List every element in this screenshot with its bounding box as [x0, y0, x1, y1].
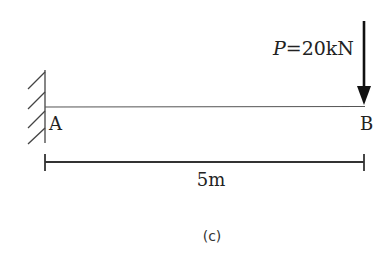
figure-caption: (c): [203, 228, 222, 244]
point-label-a: A: [48, 113, 63, 134]
load-label: P=20kN: [272, 37, 354, 59]
beam: [45, 107, 365, 108]
fixed-wall-support: [28, 70, 45, 144]
span-label: 5m: [197, 169, 226, 190]
load-arrow-icon: [357, 21, 371, 105]
point-label-b: B: [360, 113, 373, 134]
cantilever-diagram: P=20kN A B 5m (c): [0, 0, 391, 263]
